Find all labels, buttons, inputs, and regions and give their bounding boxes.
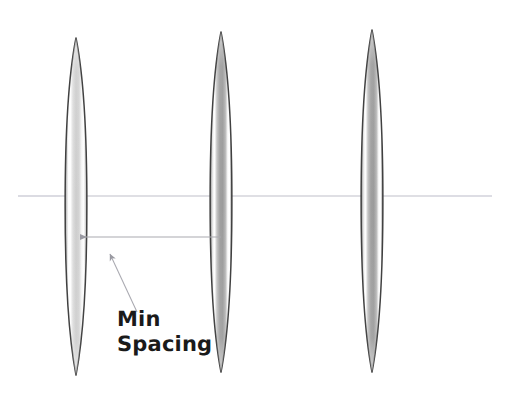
lens-3 xyxy=(361,30,383,372)
diagram-canvas: MinSpacing xyxy=(0,0,508,399)
min-spacing-label-line2: Spacing xyxy=(117,332,212,356)
min-spacing-leader xyxy=(110,254,137,312)
lens-1 xyxy=(65,38,87,375)
min-spacing-label-line1: Min xyxy=(117,307,161,331)
min-spacing-label: MinSpacing xyxy=(117,307,212,357)
lens-2 xyxy=(210,32,232,372)
lens-diagram xyxy=(0,0,508,399)
